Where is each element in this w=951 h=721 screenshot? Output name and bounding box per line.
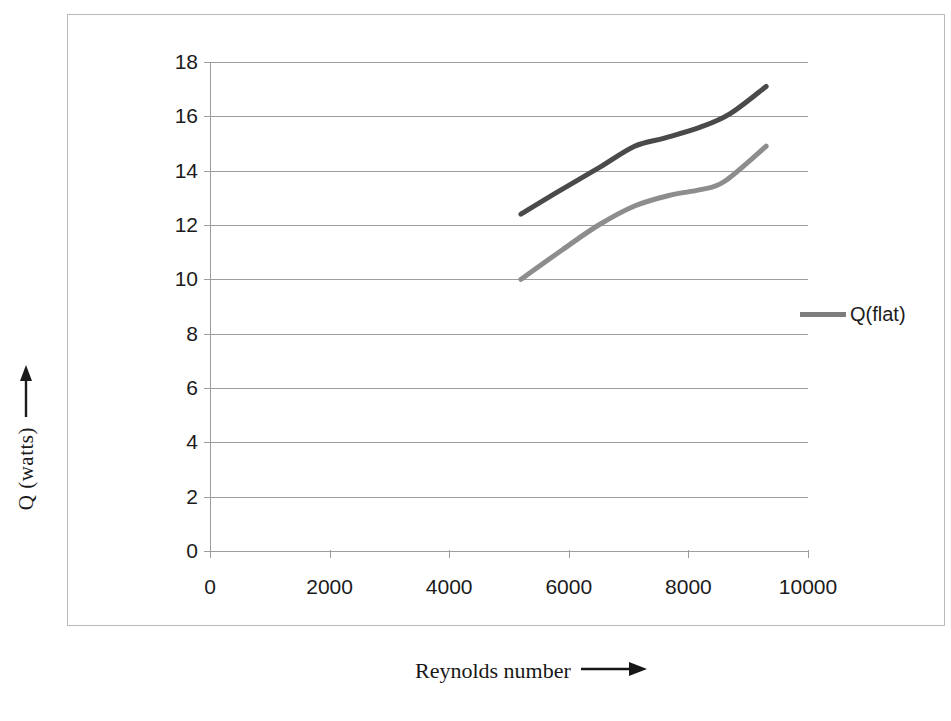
plot-area: 024681012141618 0200040006000800010000	[210, 62, 808, 551]
y-axis-tick-label: 14	[175, 159, 198, 183]
x-axis-tick-label: 0	[204, 575, 216, 599]
x-axis-tick-label: 10000	[779, 575, 837, 599]
x-axis-tick-label: 4000	[426, 575, 473, 599]
x-axis-tick	[449, 550, 450, 558]
x-axis-tick	[688, 550, 689, 558]
arrow-right-icon	[581, 660, 647, 682]
y-axis-tick-label: 6	[186, 376, 198, 400]
y-axis-tick-label: 16	[175, 104, 198, 128]
y-axis-title: Q (watts)	[6, 280, 46, 510]
x-axis-tick	[569, 550, 570, 558]
y-axis-tick-label: 8	[186, 322, 198, 346]
y-axis-tick-label: 12	[175, 213, 198, 237]
legend-line-swatch	[800, 312, 846, 317]
x-axis-tick-label: 6000	[545, 575, 592, 599]
series-line-flat	[521, 146, 766, 279]
gridline	[210, 551, 808, 552]
series-plot	[210, 62, 808, 551]
arrow-up-icon	[18, 365, 34, 421]
x-axis-tick-label: 2000	[306, 575, 353, 599]
y-axis-tick-label: 18	[175, 50, 198, 74]
legend-label: Q(flat)	[850, 303, 906, 326]
x-axis-title: Reynolds number	[415, 658, 647, 684]
y-axis-tick-label: 4	[186, 430, 198, 454]
y-axis-tick-label: 10	[175, 267, 198, 291]
x-axis-tick	[210, 550, 211, 558]
y-axis-tick-label: 2	[186, 485, 198, 509]
x-axis-tick-label: 8000	[665, 575, 712, 599]
x-axis-tick	[330, 550, 331, 558]
series-line-dark	[521, 86, 766, 214]
x-axis-tick	[808, 550, 809, 558]
legend: Q(flat)	[800, 303, 906, 326]
y-axis-title-label: Q (watts)	[14, 427, 39, 510]
y-axis-tick-label: 0	[186, 539, 198, 563]
x-axis-title-label: Reynolds number	[415, 658, 571, 684]
